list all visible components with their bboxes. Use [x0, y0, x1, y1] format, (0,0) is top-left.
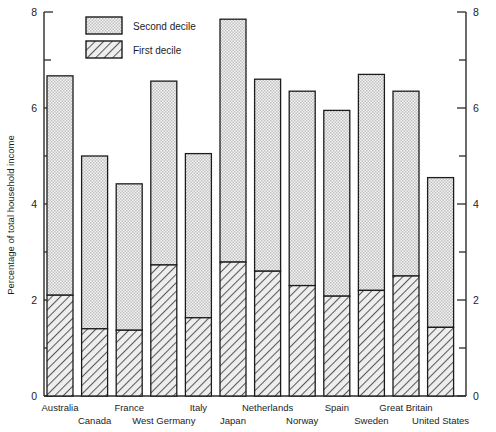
bar-segment-first-decile[interactable] [289, 286, 315, 396]
bar-segment-second-decile[interactable] [393, 91, 419, 276]
x-axis-category-label: United States [412, 415, 469, 426]
stacked-bar[interactable] [47, 76, 73, 396]
y-tick-label-right: 4 [473, 198, 479, 210]
bar-chart: 0022446688 AustraliaCanadaFranceWest Ger… [0, 0, 496, 432]
y-tick-label-left: 4 [31, 198, 37, 210]
y-tick-label-left: 0 [31, 390, 37, 402]
chart-background [0, 0, 496, 432]
legend-label: First decile [133, 45, 182, 56]
y-axis-title-group: Percentage of total household income [5, 135, 16, 295]
bar-segment-second-decile[interactable] [289, 91, 315, 285]
bar-segment-second-decile[interactable] [47, 76, 73, 295]
x-axis-category-label: Norway [286, 415, 318, 426]
bar-segment-first-decile[interactable] [82, 329, 108, 396]
stacked-bar[interactable] [116, 184, 142, 396]
x-axis-category-label: Netherlands [242, 402, 293, 413]
y-tick-label-left: 2 [31, 294, 37, 306]
stacked-bar[interactable] [220, 19, 246, 396]
bar-segment-first-decile[interactable] [428, 327, 454, 396]
bar-segment-second-decile[interactable] [324, 110, 350, 296]
bar-segment-first-decile[interactable] [116, 330, 142, 396]
y-axis-title: Percentage of total household income [5, 135, 16, 295]
bar-segment-first-decile[interactable] [324, 296, 350, 396]
bar-segment-second-decile[interactable] [116, 184, 142, 330]
bar-segment-second-decile[interactable] [358, 74, 384, 290]
stacked-bar[interactable] [185, 154, 211, 396]
x-axis-category-label: Italy [190, 402, 208, 413]
y-tick-label-right: 8 [473, 6, 479, 18]
x-axis-category-label: Japan [220, 415, 246, 426]
chart-container: 0022446688 AustraliaCanadaFranceWest Ger… [0, 0, 496, 432]
bar-segment-first-decile[interactable] [255, 271, 281, 396]
bar-segment-second-decile[interactable] [151, 81, 177, 265]
stacked-bar[interactable] [428, 178, 454, 396]
bar-segment-first-decile[interactable] [151, 265, 177, 396]
x-axis-category-label: West Germany [132, 415, 195, 426]
bar-segment-second-decile[interactable] [255, 79, 281, 271]
bar-segment-second-decile[interactable] [82, 156, 108, 329]
bar-segment-first-decile[interactable] [185, 318, 211, 396]
stacked-bar[interactable] [358, 74, 384, 396]
x-axis-category-label: Canada [78, 415, 112, 426]
legend-swatch [86, 17, 122, 34]
bar-segment-first-decile[interactable] [47, 295, 73, 396]
stacked-bar[interactable] [393, 91, 419, 396]
x-axis-category-label: Great Britain [379, 402, 432, 413]
y-tick-label-left: 8 [31, 6, 37, 18]
y-tick-label-left: 6 [31, 102, 37, 114]
stacked-bar[interactable] [289, 91, 315, 396]
bar-segment-first-decile[interactable] [220, 262, 246, 396]
bar-segment-second-decile[interactable] [185, 154, 211, 318]
bar-segment-second-decile[interactable] [428, 178, 454, 328]
stacked-bar[interactable] [255, 79, 281, 396]
y-tick-label-right: 0 [473, 390, 479, 402]
x-axis-category-label: Sweden [354, 415, 388, 426]
stacked-bar[interactable] [82, 156, 108, 396]
bar-segment-first-decile[interactable] [393, 276, 419, 396]
x-axis-category-label: France [114, 402, 144, 413]
stacked-bar[interactable] [324, 110, 350, 396]
y-tick-label-right: 2 [473, 294, 479, 306]
legend-swatch [86, 41, 122, 58]
bar-segment-first-decile[interactable] [358, 290, 384, 396]
x-axis-category-label: Spain [325, 402, 349, 413]
bar-segment-second-decile[interactable] [220, 19, 246, 262]
stacked-bar[interactable] [151, 81, 177, 396]
y-tick-label-right: 6 [473, 102, 479, 114]
legend-label: Second decile [133, 21, 196, 32]
x-axis-category-label: Australia [42, 402, 80, 413]
